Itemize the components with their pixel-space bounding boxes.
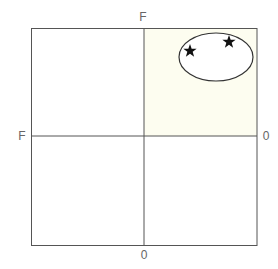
- quadrant-diagram: F F 0 0: [0, 0, 278, 269]
- axis-label-left: F: [18, 129, 25, 143]
- group-ellipse: [179, 33, 253, 81]
- axis-label-top: F: [139, 10, 146, 24]
- axis-label-bottom: 0: [141, 248, 148, 262]
- axis-label-right: 0: [263, 129, 270, 143]
